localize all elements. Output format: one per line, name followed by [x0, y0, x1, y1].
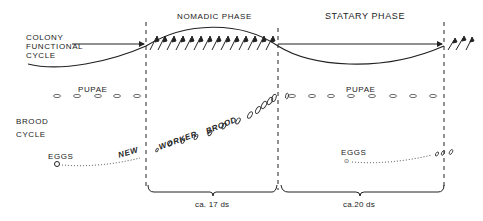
duration-braces — [148, 185, 444, 196]
eggs-left-label: EGGS — [48, 152, 74, 161]
eggs-right-label: EGGS — [341, 148, 367, 157]
raid-arrows — [150, 36, 474, 50]
brood-label-1: BROOD — [16, 117, 48, 126]
colony-label-2: FUNCTIONAL — [26, 42, 83, 51]
colony-cycle-curve — [28, 27, 444, 67]
svg-text:⊙: ⊙ — [344, 158, 349, 164]
colony-label-3: CYCLE — [26, 51, 56, 60]
army-ant-cycle-diagram: ⊙ — [0, 0, 483, 221]
statary-duration: ca.20 ds — [343, 200, 375, 209]
phase-boundaries — [146, 22, 444, 190]
statary-phase-title: STATARY PHASE — [325, 12, 405, 21]
pupae-left — [54, 94, 141, 97]
pupae-right-label: PUPAE — [346, 85, 376, 94]
pupae-left-label: PUPAE — [78, 85, 108, 94]
nomadic-duration: ca. 17 ds — [195, 200, 229, 209]
colony-label-1: COLONY — [26, 33, 63, 42]
brood-label-2: CYCLE — [16, 130, 46, 139]
nomadic-phase-title: NOMADIC PHASE — [177, 12, 252, 21]
pupae-right — [289, 94, 437, 97]
